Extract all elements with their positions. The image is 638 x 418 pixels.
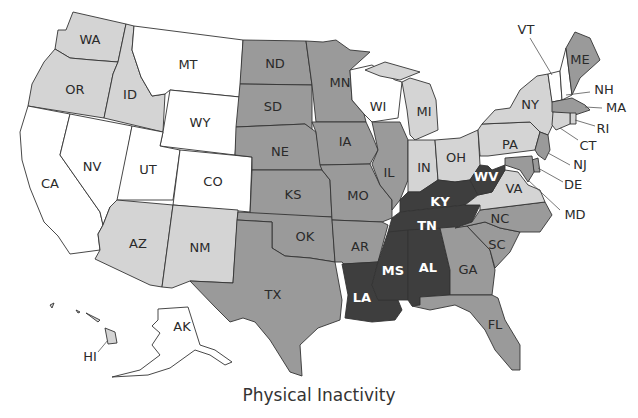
state-label-fl: FL: [488, 317, 503, 332]
state-label-nv: NV: [83, 159, 102, 174]
leader-ri: [575, 120, 595, 126]
state-label-mo: MO: [347, 188, 368, 203]
state-label-ut: UT: [139, 162, 157, 177]
state-label-wi: WI: [370, 99, 387, 114]
state-label-ok: OK: [296, 229, 315, 244]
state-label-ky: KY: [430, 194, 450, 209]
us-choropleth-map: WAORCANVIDMTWYUTCOAZNMNDSDNEKSOKTXMNIAMO…: [0, 0, 638, 418]
leader-nj: [548, 153, 570, 165]
state-label-in: IN: [417, 160, 431, 175]
state-label-ak: AK: [173, 319, 191, 334]
state-fl[interactable]: [412, 295, 520, 370]
state-label-wv: WV: [474, 169, 498, 184]
state-label-ms: MS: [382, 263, 404, 278]
state-label-nh: NH: [594, 82, 614, 97]
leader-hi: [98, 340, 108, 352]
state-ak[interactable]: [112, 307, 232, 377]
state-label-va: VA: [506, 181, 523, 196]
state-label-sc: SC: [488, 237, 505, 252]
state-label-ny: NY: [521, 97, 539, 112]
state-label-nm: NM: [190, 240, 211, 255]
leader-vt: [530, 38, 552, 75]
leader-ct: [560, 128, 578, 140]
state-label-id: ID: [123, 87, 137, 102]
state-label-pa: PA: [502, 137, 518, 152]
leader-de: [538, 168, 563, 182]
state-ri[interactable]: [570, 113, 576, 124]
state-label-mt: MT: [178, 57, 197, 72]
state-label-vt: VT: [518, 22, 535, 37]
state-label-ks: KS: [285, 187, 302, 202]
state-label-me: ME: [570, 52, 589, 67]
state-label-tx: TX: [264, 287, 282, 302]
state-label-al: AL: [419, 260, 437, 275]
state-label-nc: NC: [491, 211, 510, 226]
state-label-ri: RI: [597, 121, 610, 136]
state-label-ar: AR: [351, 239, 369, 254]
state-label-wy: WY: [190, 115, 211, 130]
state-label-az: AZ: [129, 236, 147, 251]
state-label-ne: NE: [271, 144, 289, 159]
state-label-ia: IA: [339, 134, 352, 149]
state-label-hi: HI: [83, 349, 97, 364]
state-label-wa: WA: [79, 32, 100, 47]
state-label-tn: TN: [417, 218, 437, 233]
state-hi[interactable]: [50, 303, 117, 344]
state-label-md: MD: [564, 207, 585, 222]
state-label-ct: CT: [579, 138, 596, 153]
state-label-co: CO: [203, 174, 222, 189]
state-label-ga: GA: [459, 262, 478, 277]
state-label-de: DE: [564, 177, 582, 192]
state-label-ma: MA: [606, 100, 626, 115]
map-title: Physical Inactivity: [0, 385, 638, 405]
state-label-il: IL: [383, 165, 395, 180]
state-label-sd: SD: [264, 99, 282, 114]
state-label-nj: NJ: [573, 157, 587, 172]
state-label-oh: OH: [446, 150, 466, 165]
state-label-mn: MN: [330, 75, 351, 90]
state-label-ca: CA: [41, 176, 59, 191]
state-label-la: LA: [353, 290, 371, 305]
state-label-or: OR: [65, 82, 84, 97]
state-label-mi: MI: [416, 104, 431, 119]
state-ct[interactable]: [552, 112, 570, 130]
state-label-nd: ND: [265, 56, 285, 71]
